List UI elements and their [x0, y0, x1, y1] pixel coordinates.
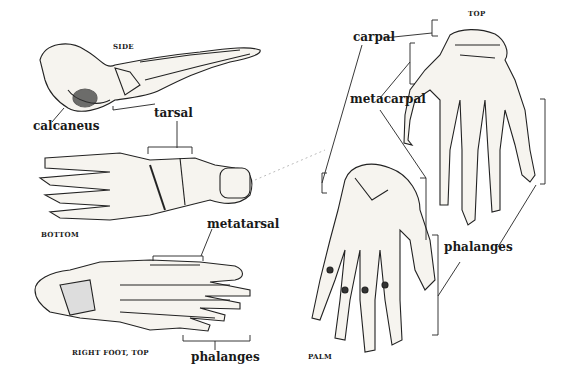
label-carpal: carpal: [353, 30, 395, 44]
skeleton-illustration: [0, 0, 570, 376]
label-metatarsal: metatarsal: [207, 217, 279, 231]
label-tarsal: tarsal: [154, 106, 193, 120]
label-calcaneus: calcaneus: [33, 119, 100, 133]
hand-top-drawing: [404, 30, 535, 225]
label-palm-view: PALM: [308, 352, 332, 361]
label-metacarpal: metacarpal: [350, 92, 426, 106]
foot-bottom-drawing: [40, 153, 252, 220]
foot-top-drawing: [35, 260, 250, 331]
label-phalanges-foot: phalanges: [191, 350, 260, 364]
label-right-foot-top-view: RIGHT FOOT, TOP: [72, 348, 149, 357]
hand-palm-drawing: [312, 164, 435, 352]
label-phalanges-hand: phalanges: [444, 240, 513, 254]
dotted-connector: [255, 150, 325, 180]
foot-side-drawing: [40, 44, 260, 111]
label-top-view: TOP: [468, 9, 485, 18]
label-bottom-view: BOTTOM: [41, 230, 79, 239]
label-side-view: SIDE: [113, 42, 134, 51]
